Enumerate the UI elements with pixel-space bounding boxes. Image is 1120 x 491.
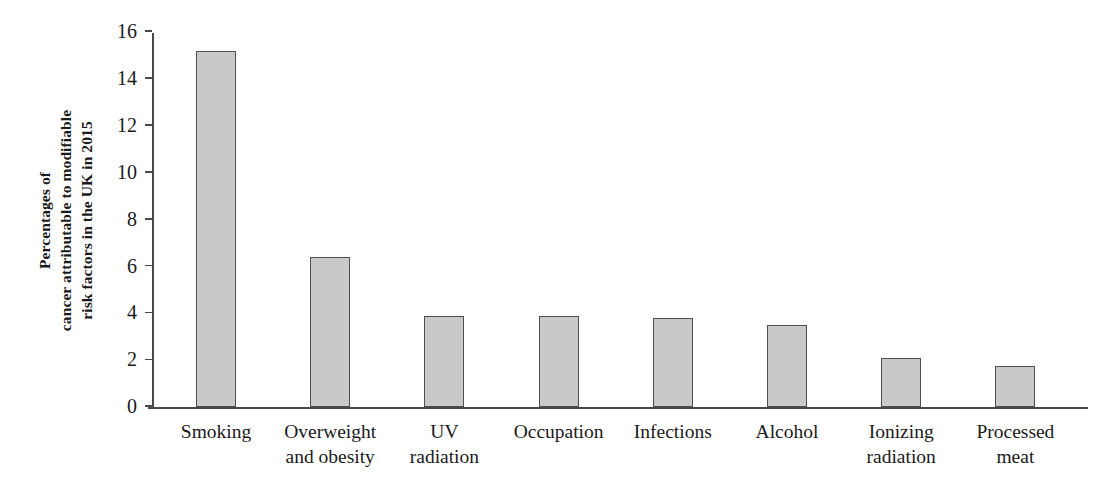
y-axis-tick-label: 6	[127, 255, 137, 275]
y-axis-tick: 16	[145, 30, 152, 32]
x-axis-category-label: Processed meat	[940, 419, 1090, 469]
y-axis-tick-label: 12	[117, 115, 137, 135]
bar	[653, 318, 693, 407]
y-axis-tick-label: 10	[117, 161, 137, 181]
y-axis-title-line-1: Percentages of	[35, 109, 56, 330]
y-axis-tick: 6	[145, 265, 152, 267]
y-axis-tick: 8	[145, 218, 152, 220]
y-axis-tick-label: 0	[127, 396, 137, 416]
y-axis-tick-label: 4	[127, 302, 137, 322]
bar	[767, 325, 807, 407]
y-axis-tick-label: 16	[117, 21, 137, 41]
y-axis-tick: 14	[145, 77, 152, 79]
y-axis-title-line-2: cancer attributable to modifiable	[56, 109, 77, 330]
y-axis-tick: 12	[145, 124, 152, 126]
y-axis-tick: 0	[145, 405, 152, 407]
bar	[424, 316, 464, 407]
y-axis-tick-label: 2	[127, 349, 137, 369]
bar	[310, 257, 350, 407]
bar	[881, 358, 921, 407]
y-axis-line	[152, 33, 154, 409]
plot-area: 0246810121416 SmokingOverweight and obes…	[152, 33, 1088, 408]
y-axis-tick-label: 8	[127, 208, 137, 228]
bar	[539, 316, 579, 407]
bar-chart: Percentages of cancer attributable to mo…	[0, 0, 1120, 491]
y-axis-title: Percentages of cancer attributable to mo…	[26, 0, 106, 440]
bar	[196, 51, 236, 407]
y-axis-tick: 4	[145, 312, 152, 314]
y-axis-tick: 2	[145, 359, 152, 361]
y-axis-title-line-3: risk factors in the UK in 2015	[77, 109, 98, 330]
y-axis-tick: 10	[145, 171, 152, 173]
x-axis-line	[148, 407, 1088, 409]
bar	[995, 366, 1035, 407]
y-axis-tick-label: 14	[117, 68, 137, 88]
